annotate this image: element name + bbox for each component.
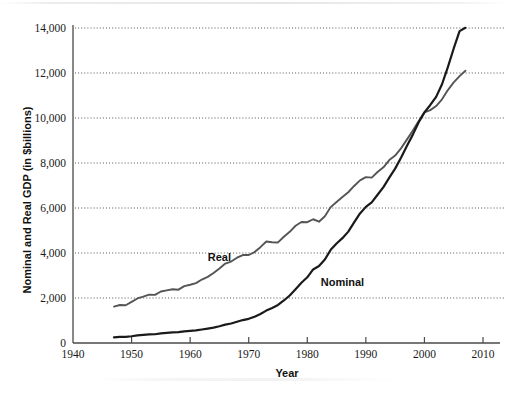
series-label-real: Real	[208, 251, 231, 263]
series-labels-group: RealNominal	[208, 251, 364, 288]
x-tick-label: 1940	[62, 348, 85, 360]
series-line-real	[114, 71, 465, 307]
series-label-nominal: Nominal	[321, 276, 364, 288]
series-group	[114, 28, 465, 338]
y-tick-label: 10,000	[34, 112, 66, 125]
y-tick-label: 12,000	[34, 67, 66, 80]
y-tick-label: 2,000	[40, 292, 66, 305]
gridlines-group	[75, 28, 505, 298]
x-tick-label: 1950	[120, 348, 143, 360]
y-tick-label: 6,000	[40, 202, 66, 215]
x-axis-ticks-group: 19401950196019701980199020002010	[62, 337, 495, 360]
x-tick-label: 2000	[413, 348, 436, 360]
x-tick-label: 1970	[237, 348, 260, 360]
gdp-chart-figure: 02,0004,0006,0008,00010,00012,00014,000 …	[0, 0, 509, 398]
y-tick-label: 14,000	[34, 22, 66, 35]
y-tick-label: 8,000	[40, 157, 66, 170]
chart-svg: 02,0004,0006,0008,00010,00012,00014,000 …	[0, 0, 509, 398]
y-axis-ticks-group: 02,0004,0006,0008,00010,00012,00014,000	[34, 22, 66, 349]
x-tick-label: 1990	[354, 348, 377, 360]
x-tick-label: 1980	[296, 348, 319, 360]
x-tick-label: 2010	[472, 348, 495, 360]
x-tick-label: 1960	[179, 348, 202, 360]
x-axis-title: Year	[275, 367, 299, 379]
y-axis-title: Nominal and Real GDP (in $billions)	[21, 106, 33, 293]
y-tick-label: 4,000	[40, 247, 66, 260]
